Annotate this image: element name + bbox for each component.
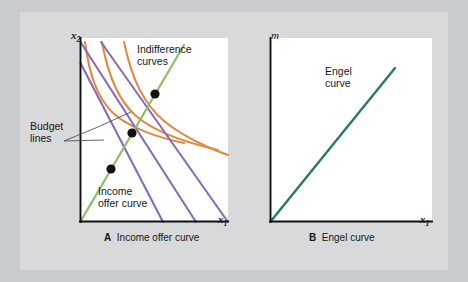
engel-curve-label: Engel curve — [325, 66, 352, 90]
panel-a-y-axis-label: x2 — [71, 29, 81, 45]
panel-a-x-axis-label: x1 — [218, 213, 228, 229]
panel-b-caption-text: Engel curve — [322, 232, 375, 243]
indifference-curves-label: Indifference curves — [137, 44, 192, 68]
panel-b-caption-letter: B — [309, 232, 316, 243]
panel-a-caption-text: Income offer curve — [117, 232, 200, 243]
panel-a-caption-letter: A — [104, 232, 111, 243]
panel-b-y-axis-label: m — [271, 29, 279, 41]
income-offer-curve-label: Income offer curve — [98, 186, 147, 210]
panel-b-x-axis-label: x1 — [420, 213, 430, 229]
panel-a-caption: A Income offer curve — [104, 232, 199, 243]
figure-container: x2 x1 m x1 Indifference curves Budget li… — [0, 0, 468, 282]
figure-panel-background — [20, 12, 448, 270]
budget-lines-label: Budget lines — [30, 121, 63, 145]
panel-b-caption: B Engel curve — [309, 232, 375, 243]
